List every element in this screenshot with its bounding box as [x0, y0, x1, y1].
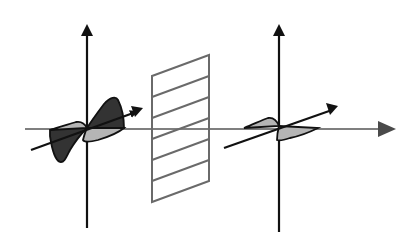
wave-direction-arrowhead-icon — [326, 103, 338, 115]
wave-lobe-light-upper — [244, 118, 279, 128]
polarizer-line — [152, 76, 209, 97]
unpolarized-wave — [31, 24, 143, 228]
vertical-axis-arrowhead-icon — [273, 24, 285, 36]
wave-direction-arrowhead-icon — [131, 106, 143, 117]
polarizer-line — [152, 160, 209, 181]
polarization-diagram — [0, 0, 416, 251]
polarizer-line — [152, 97, 209, 118]
wave-lobe-light-left — [50, 122, 87, 130]
vertical-axis-arrowhead-icon — [81, 24, 93, 36]
diagram-canvas — [0, 0, 416, 251]
polarized-wave — [224, 24, 338, 232]
polarizer-line — [152, 139, 209, 160]
propagation-arrowhead-icon — [378, 121, 396, 137]
